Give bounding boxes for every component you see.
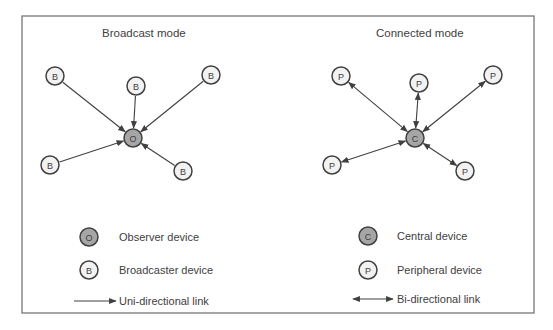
unidirectional-link-arrow <box>141 144 174 166</box>
device-node-central: C <box>406 129 424 147</box>
node-label: P <box>365 266 371 276</box>
legend-node-icon: P <box>359 261 377 279</box>
device-node-broadcaster: B <box>174 162 192 180</box>
node-label: B <box>180 167 186 177</box>
node-label: B <box>208 71 214 81</box>
legend-node-icon: O <box>80 228 98 246</box>
node-label: B <box>47 161 53 171</box>
legend-node-icon: C <box>359 227 377 245</box>
legend-item: OObserver device <box>80 228 199 246</box>
mode-panels: Broadcast modeBBBBBOConnected modePPPPPC <box>41 27 502 180</box>
bidirectional-link-arrow <box>349 82 408 131</box>
legend-item: PPeripheral device <box>359 261 482 279</box>
device-node-broadcaster: B <box>202 66 220 84</box>
unidirectional-link-arrow <box>141 81 203 131</box>
node-label: P <box>462 167 468 177</box>
node-label: O <box>85 233 92 243</box>
panel-title: Connected mode <box>376 27 464 39</box>
bidirectional-link-arrow <box>423 81 485 131</box>
legend-item: CCentral device <box>359 227 467 245</box>
legend: OObserver deviceBBroadcaster deviceUni-d… <box>74 227 482 307</box>
node-label: P <box>329 161 335 171</box>
ble-modes-diagram: Broadcast modeBBBBBOConnected modePPPPPC… <box>0 0 553 330</box>
bidirectional-link-arrow <box>416 93 419 128</box>
links <box>342 81 486 165</box>
node-label: C <box>412 134 419 144</box>
device-node-observer: O <box>124 129 142 147</box>
node-label: B <box>86 266 92 276</box>
node-label: B <box>133 82 139 92</box>
panel-broadcast: Broadcast modeBBBBBO <box>41 27 220 180</box>
unidirectional-link-arrow <box>60 141 124 162</box>
node-label: P <box>490 71 496 81</box>
device-node-peripheral: P <box>456 162 474 180</box>
device-node-peripheral: P <box>484 66 502 84</box>
device-node-broadcaster: B <box>127 77 145 95</box>
panel-connected: Connected modePPPPPC <box>323 27 502 180</box>
node-label: O <box>129 134 136 144</box>
legend-label: Peripheral device <box>397 264 482 276</box>
legend-label: Observer device <box>119 231 199 243</box>
bidirectional-link-arrow <box>342 141 406 162</box>
legend-label: Broadcaster device <box>119 264 213 276</box>
unidirectional-link-arrow <box>63 82 125 132</box>
legend-label: Uni-directional link <box>119 295 209 307</box>
unidirectional-link-arrow <box>134 96 136 128</box>
node-label: C <box>365 232 372 242</box>
legend-item: Uni-directional link <box>74 295 209 307</box>
device-node-peripheral: P <box>410 74 428 92</box>
device-node-broadcaster: B <box>46 67 64 85</box>
node-label: P <box>338 72 344 82</box>
legend-label: Central device <box>397 230 467 242</box>
device-node-broadcaster: B <box>41 156 59 174</box>
node-label: B <box>52 72 58 82</box>
legend-label: Bi-directional link <box>397 293 481 305</box>
device-node-peripheral: P <box>323 156 341 174</box>
device-node-peripheral: P <box>332 67 350 85</box>
legend-item: BBroadcaster device <box>80 261 213 279</box>
legend-item: Bi-directional link <box>353 293 481 305</box>
bidirectional-link-arrow <box>423 144 456 166</box>
legend-node-icon: B <box>80 261 98 279</box>
panel-title: Broadcast mode <box>102 27 186 39</box>
node-label: P <box>416 79 422 89</box>
